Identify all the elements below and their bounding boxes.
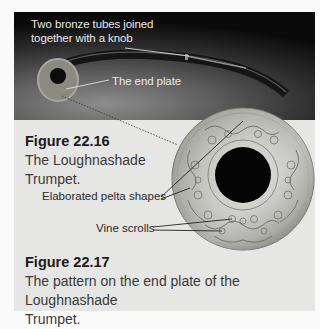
figure-22-16-number: Figure 22.16 [25,133,110,149]
figure-22-16-caption-line2: Trumpet. [25,170,146,189]
tubes-label-line2: together with a knob [31,31,153,45]
figure-22-16-caption-line1: The Loughnashade [25,151,146,170]
figure-22-17-number: Figure 22.17 [25,254,110,270]
tubes-label: Two bronze tubes joined together with a … [31,17,153,45]
end-plate-label: The end plate [112,74,181,88]
trumpet-photo: Two bronze tubes joined together with a … [14,12,315,120]
vine-scrolls-callout: Vine scrolls [96,222,155,234]
pelta-shapes-callout: Elaborated pelta shapes [42,190,166,202]
figure-22-17-caption-line1: The pattern on the end plate of the Loug… [25,272,320,310]
figure-22-17-caption: The pattern on the end plate of the Loug… [25,272,320,329]
figure-22-16-caption: The Loughnashade Trumpet. [25,151,146,189]
tubes-label-line1: Two bronze tubes joined [31,17,153,31]
figure-22-17-caption-line2: Trumpet. [25,310,320,329]
